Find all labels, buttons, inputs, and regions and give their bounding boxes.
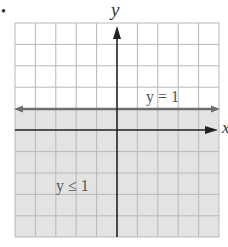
inequality-graph — [0, 0, 228, 247]
region-label: y ≤ 1 — [56, 177, 89, 195]
y-axis-label: y — [111, 0, 119, 21]
boundary-label: y = 1 — [146, 88, 179, 106]
x-axis-label: x — [222, 118, 228, 138]
